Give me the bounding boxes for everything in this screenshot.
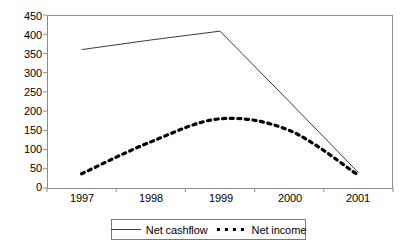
y-tick-label-150: 150 <box>10 125 42 136</box>
chart-legend: Net cashflow Net income <box>111 219 306 240</box>
x-tick-label-1998: 1998 <box>126 192 176 204</box>
x-tick-label-1999: 1999 <box>196 192 246 204</box>
legend-item-net-income: Net income <box>217 224 307 236</box>
x-tick-label-1997: 1997 <box>57 192 107 204</box>
line-chart: 450 400 350 300 250 200 150 100 50 0 199… <box>0 0 408 252</box>
y-tick-label-100: 100 <box>10 144 42 155</box>
x-tick-label-2001: 2001 <box>333 192 383 204</box>
legend-label-net-cashflow: Net cashflow <box>146 224 208 236</box>
y-tick-label-350: 350 <box>10 49 42 60</box>
legend-label-net-income: Net income <box>252 224 307 236</box>
y-tick-label-300: 300 <box>10 68 42 79</box>
x-axis-line <box>47 188 393 189</box>
dotted-line-swatch-icon <box>217 228 247 231</box>
y-axis-line <box>47 15 48 189</box>
y-tick-label-0: 0 <box>10 182 42 193</box>
y-tick-label-250: 250 <box>10 87 42 98</box>
y-tick-label-50: 50 <box>10 163 42 174</box>
y-tick-label-200: 200 <box>10 106 42 117</box>
plot-area-frame <box>47 15 393 189</box>
y-tick-label-450: 450 <box>10 11 42 22</box>
solid-line-swatch-icon <box>111 229 141 230</box>
y-tick-label-400: 400 <box>10 30 42 41</box>
x-tick-label-2000: 2000 <box>265 192 315 204</box>
y-axis-tick-labels: 450 400 350 300 250 200 150 100 50 0 <box>6 0 42 252</box>
legend-item-net-cashflow: Net cashflow <box>111 224 208 236</box>
